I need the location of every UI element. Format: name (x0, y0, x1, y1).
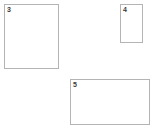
shape-rectangle-4[interactable]: 4 (120, 4, 143, 43)
shape-canvas: 3 4 5 (0, 0, 155, 138)
shape-label-4: 4 (123, 6, 127, 14)
shape-rectangle-5[interactable]: 5 (70, 79, 150, 125)
shape-rectangle-3[interactable]: 3 (4, 4, 59, 69)
shape-label-3: 3 (7, 6, 11, 14)
shape-label-5: 5 (73, 81, 77, 89)
